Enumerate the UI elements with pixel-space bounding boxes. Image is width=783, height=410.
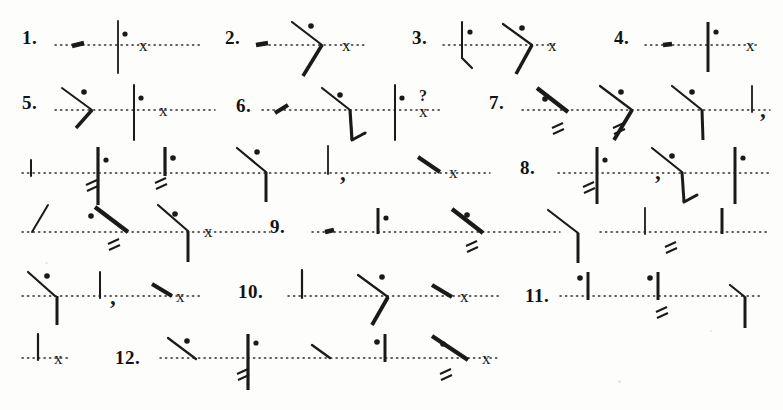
shorthand-page: 1.2.3.4.5.6.7.8.9.10.11.12. xxxxx?x,,xx,…: [0, 0, 783, 410]
paper-speck: [710, 330, 712, 332]
paper-specks: [0, 0, 783, 410]
paper-speck: [618, 380, 621, 383]
paper-speck: [45, 262, 48, 264]
